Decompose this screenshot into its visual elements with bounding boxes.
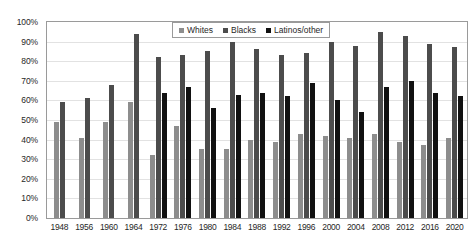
x-axis-tick: 2004: [343, 222, 368, 240]
bar-group: [418, 22, 443, 218]
x-axis-tick: 1976: [171, 222, 196, 240]
bar-blacks: [329, 42, 334, 218]
bar-blacks: [254, 49, 259, 218]
bar-whites: [273, 142, 278, 218]
y-axis-tick: 80%: [21, 56, 38, 66]
x-axis-tick: 2000: [319, 222, 344, 240]
y-axis-tick: 50%: [21, 115, 38, 125]
legend-label: Latinos/other: [274, 25, 323, 35]
x-axis-tick: 1992: [269, 222, 294, 240]
legend-swatch-icon: [266, 28, 271, 33]
x-axis-tick: 2016: [418, 222, 443, 240]
bar-whites: [54, 122, 59, 218]
bar-whites: [79, 138, 84, 218]
legend-swatch-icon: [179, 28, 184, 33]
bar-whites: [128, 102, 133, 218]
bar-whites: [323, 136, 328, 218]
x-axis-tick: 1988: [245, 222, 270, 240]
bar-blacks: [230, 42, 235, 218]
bar-latinos: [458, 96, 463, 218]
bar-whites: [372, 134, 377, 218]
bar-blacks: [378, 32, 383, 218]
legend-swatch-icon: [223, 28, 228, 33]
bar-group: [121, 22, 146, 218]
y-axis-tick: 0%: [26, 213, 38, 223]
legend-label: Blacks: [231, 25, 256, 35]
legend-item: Latinos/other: [266, 25, 323, 35]
bar-blacks: [353, 46, 358, 218]
legend-item: Blacks: [223, 25, 256, 35]
legend-label: Whites: [187, 25, 213, 35]
bar-group: [368, 22, 393, 218]
bar-latinos: [359, 112, 364, 218]
y-axis-tick: 30%: [21, 154, 38, 164]
bar-blacks: [205, 51, 210, 218]
x-axis-tick: 1960: [96, 222, 121, 240]
y-axis-tick: 40%: [21, 135, 38, 145]
bar-group: [220, 22, 245, 218]
y-axis-tick: 10%: [21, 193, 38, 203]
x-axis-tick: 1948: [47, 222, 72, 240]
x-axis-tick: 1964: [121, 222, 146, 240]
y-axis-tick: 20%: [21, 174, 38, 184]
bar-whites: [174, 126, 179, 218]
y-axis-tick: 60%: [21, 95, 38, 105]
legend-item: Whites: [179, 25, 213, 35]
x-axis-tick: 2020: [442, 222, 467, 240]
bar-latinos: [384, 87, 389, 218]
bar-group: [245, 22, 270, 218]
bar-blacks: [304, 53, 309, 218]
bar-latinos: [335, 100, 340, 218]
y-axis-tick: 70%: [21, 76, 38, 86]
bar-blacks: [427, 44, 432, 218]
bar-latinos: [162, 93, 167, 218]
bar-group: [171, 22, 196, 218]
y-axis: 100%90%80%70%60%50%40%30%20%10%0%: [0, 21, 42, 219]
bar-blacks: [403, 36, 408, 218]
bar-group: [47, 22, 72, 218]
x-axis-tick: 2012: [393, 222, 418, 240]
bar-blacks: [156, 57, 161, 218]
bar-group: [146, 22, 171, 218]
bar-whites: [248, 140, 253, 218]
bar-chart: 100%90%80%70%60%50%40%30%20%10%0% 194819…: [0, 0, 476, 243]
bar-group: [294, 22, 319, 218]
x-axis-tick: 1980: [195, 222, 220, 240]
legend: WhitesBlacksLatinos/other: [172, 22, 330, 38]
bar-group: [343, 22, 368, 218]
bar-group: [442, 22, 467, 218]
bar-whites: [347, 138, 352, 218]
bar-group: [269, 22, 294, 218]
bar-latinos: [433, 93, 438, 218]
y-axis-tick: 100%: [17, 17, 38, 27]
bar-blacks: [134, 34, 139, 218]
x-axis-tick: 2008: [368, 222, 393, 240]
bar-blacks: [60, 102, 65, 218]
bar-group: [72, 22, 97, 218]
x-axis-tick: 1972: [146, 222, 171, 240]
x-axis-tick: 1996: [294, 222, 319, 240]
bar-blacks: [180, 55, 185, 218]
bar-group: [393, 22, 418, 218]
bar-blacks: [85, 98, 90, 218]
bar-latinos: [310, 83, 315, 218]
bar-group: [319, 22, 344, 218]
x-axis-tick: 1984: [220, 222, 245, 240]
bar-group: [96, 22, 121, 218]
bar-latinos: [186, 87, 191, 218]
bar-whites: [446, 138, 451, 218]
bar-whites: [103, 122, 108, 218]
bar-whites: [224, 149, 229, 218]
bar-latinos: [211, 108, 216, 218]
bar-latinos: [260, 93, 265, 218]
y-axis-tick: 90%: [21, 37, 38, 47]
bar-whites: [199, 149, 204, 218]
bar-whites: [298, 134, 303, 218]
bars-layer: [47, 22, 467, 218]
bar-latinos: [409, 81, 414, 218]
bar-whites: [150, 155, 155, 218]
bar-blacks: [109, 85, 114, 218]
bar-whites: [397, 142, 402, 218]
x-axis: 1948195619601964197219761980198419881992…: [47, 222, 467, 240]
x-axis-tick: 1956: [72, 222, 97, 240]
